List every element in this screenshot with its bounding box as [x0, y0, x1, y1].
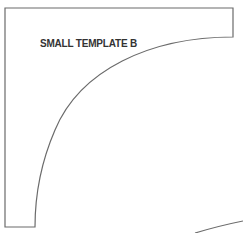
- template-label: SMALL TEMPLATE B: [40, 38, 137, 49]
- template-diagram: [0, 0, 243, 233]
- partial-arc: [195, 221, 243, 233]
